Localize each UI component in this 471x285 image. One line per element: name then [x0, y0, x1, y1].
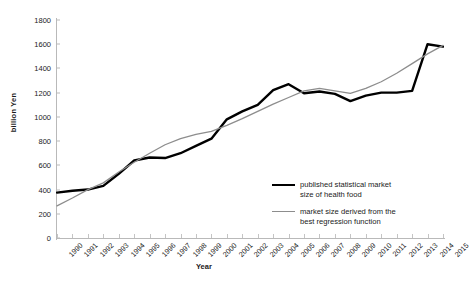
y-tick-mark: [56, 20, 60, 21]
x-tick-mark: [258, 234, 259, 238]
x-tick-mark: [350, 234, 351, 238]
x-tick-mark: [165, 234, 166, 238]
x-tick-label: 2008: [345, 241, 363, 259]
legend-item-published: published statistical market size of hea…: [272, 180, 452, 199]
x-tick-label: 2011: [391, 241, 408, 258]
chart-legend: published statistical market size of hea…: [272, 180, 452, 234]
x-tick-mark: [443, 234, 444, 238]
y-tick-label: 1000: [34, 112, 56, 121]
x-tick-label: 2001: [237, 241, 255, 259]
x-tick-mark: [289, 234, 290, 238]
y-tick-mark: [56, 213, 60, 214]
x-tick-mark: [304, 234, 305, 238]
x-tick-mark: [397, 234, 398, 238]
legend-label-regression-line1: market size derived from the: [300, 207, 452, 217]
y-tick-mark: [56, 141, 60, 142]
x-tick-mark: [366, 234, 367, 238]
x-tick-label: 2013: [422, 241, 440, 259]
x-tick-mark: [428, 234, 429, 238]
legend-swatch-regression-line: [272, 211, 295, 212]
y-tick-label: 1400: [34, 64, 56, 73]
x-tick-mark: [273, 234, 274, 238]
y-tick-label: 600: [38, 161, 56, 170]
y-tick-mark: [56, 92, 60, 93]
x-axis-title: Year: [196, 262, 212, 271]
x-tick-mark: [134, 234, 135, 238]
x-tick-mark: [335, 234, 336, 238]
y-tick-label: 200: [38, 209, 56, 218]
legend-swatch-published-line: [272, 184, 295, 186]
x-tick-label: 2015: [453, 241, 471, 259]
y-tick-mark: [56, 116, 60, 117]
x-tick-label: 2004: [283, 241, 301, 259]
series-published-statistical: [57, 44, 443, 192]
x-tick-label: 1998: [190, 241, 208, 259]
x-tick-mark: [211, 234, 212, 238]
legend-label-regression-line2: best regression function: [300, 217, 452, 227]
x-tick-label: 1997: [175, 241, 193, 259]
y-tick-label: 1800: [34, 16, 56, 25]
x-tick-label: 1990: [67, 241, 85, 259]
x-tick-mark: [150, 234, 151, 238]
x-tick-mark: [319, 234, 320, 238]
y-tick-label: 1200: [34, 88, 56, 97]
x-tick-mark: [381, 234, 382, 238]
x-tick-mark: [181, 234, 182, 238]
x-tick-label: 1992: [98, 241, 116, 259]
y-tick-mark: [56, 165, 60, 166]
x-tick-label: 2010: [376, 241, 394, 259]
x-tick-label: 2012: [406, 241, 424, 259]
x-tick-label: 1991: [82, 241, 100, 259]
legend-label-published-line1: published statistical market: [300, 180, 452, 190]
x-tick-label: 2009: [360, 241, 378, 259]
x-tick-label: 2007: [329, 241, 347, 259]
x-tick-mark: [242, 234, 243, 238]
y-tick-mark: [56, 189, 60, 190]
x-tick-mark: [57, 234, 58, 238]
y-tick-label: 800: [38, 137, 56, 146]
y-tick-mark: [56, 68, 60, 69]
x-tick-label: 1999: [206, 241, 224, 259]
y-axis-title: billion Yen: [9, 78, 18, 148]
x-tick-label: 1995: [144, 241, 162, 259]
x-tick-label: 2014: [437, 241, 455, 259]
x-tick-label: 1993: [113, 241, 131, 259]
y-tick-label: 400: [38, 185, 56, 194]
x-tick-label: 2003: [267, 241, 285, 259]
x-tick-label: 1994: [129, 241, 147, 259]
y-tick-label: 1600: [34, 40, 56, 49]
x-tick-mark: [103, 234, 104, 238]
x-tick-mark: [412, 234, 413, 238]
x-tick-mark: [72, 234, 73, 238]
x-tick-label: 2005: [298, 241, 316, 259]
legend-item-regression: market size derived from the best regres…: [272, 207, 452, 226]
y-tick-label: 0: [47, 234, 56, 243]
x-tick-label: 1996: [159, 241, 177, 259]
y-tick-mark: [56, 44, 60, 45]
x-tick-label: 2000: [221, 241, 239, 259]
x-tick-label: 2002: [252, 241, 270, 259]
x-tick-mark: [196, 234, 197, 238]
x-tick-label: 2006: [314, 241, 332, 259]
x-tick-mark: [119, 234, 120, 238]
legend-label-published-line2: size of health food: [300, 190, 452, 200]
x-tick-mark: [88, 234, 89, 238]
x-axis-line: [56, 238, 445, 239]
x-tick-mark: [227, 234, 228, 238]
